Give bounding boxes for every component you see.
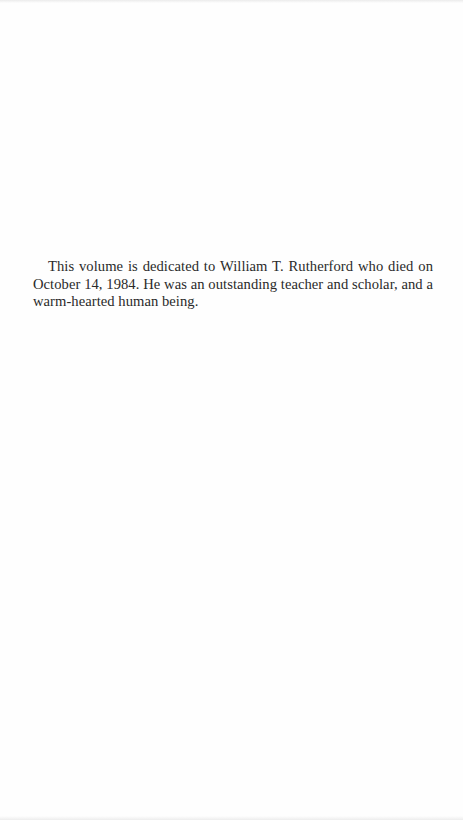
dedication-paragraph: This volume is dedicated to William T. R… bbox=[33, 258, 433, 311]
page-top-edge bbox=[0, 0, 463, 3]
page-bottom-edge bbox=[0, 816, 463, 820]
book-page: This volume is dedicated to William T. R… bbox=[0, 0, 463, 820]
